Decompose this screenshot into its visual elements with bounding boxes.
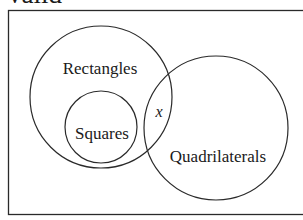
squares-label: Squares: [75, 124, 129, 143]
quadrilaterals-label: Quadrilaterals: [170, 147, 266, 166]
quadrilaterals-circle: [144, 56, 288, 200]
region-x-label: x: [154, 103, 162, 120]
rectangles-label: Rectangles: [63, 59, 138, 78]
venn-diagram: Rectangles Squares Quadrilaterals x: [0, 0, 303, 220]
